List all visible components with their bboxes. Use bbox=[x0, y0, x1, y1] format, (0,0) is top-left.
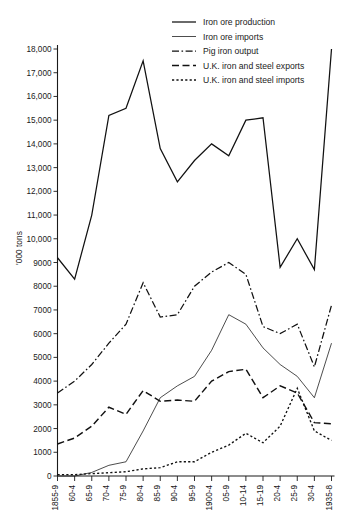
legend-label: Iron ore production bbox=[203, 17, 275, 27]
legend-label: Pig iron output bbox=[203, 46, 259, 56]
x-tick-label: 60-4 bbox=[68, 485, 77, 502]
x-tick-label: 1935-8 bbox=[325, 485, 334, 511]
y-tick-label: 18,000 bbox=[26, 45, 51, 54]
y-tick-label: 14,000 bbox=[26, 140, 51, 149]
x-tick-label: 15-19 bbox=[256, 485, 265, 506]
x-tick-label: 70-4 bbox=[102, 485, 111, 502]
x-tick-label: 90-4 bbox=[170, 485, 179, 502]
x-tick-label: 05-9 bbox=[222, 485, 231, 502]
y-axis: 010002000300040005000600070008000900010,… bbox=[26, 45, 57, 481]
x-tick-label: 80-4 bbox=[136, 485, 145, 502]
y-tick-label: 3000 bbox=[33, 401, 52, 410]
legend-label: U.K. iron and steel imports bbox=[203, 75, 304, 85]
y-tick-label: 8000 bbox=[33, 282, 52, 291]
x-tick-label: 75-9 bbox=[119, 485, 128, 502]
series-line bbox=[58, 315, 332, 476]
y-tick-label: 15,000 bbox=[26, 116, 51, 125]
series-lines bbox=[58, 49, 332, 476]
y-tick-label: 17,000 bbox=[26, 69, 51, 78]
y-tick-label: 2000 bbox=[33, 425, 52, 434]
x-tick-label: 30-4 bbox=[307, 485, 316, 502]
x-tick-label: 25-9 bbox=[290, 485, 299, 502]
y-tick-label: 12,000 bbox=[26, 187, 51, 196]
line-chart: Iron ore productionIron ore importsPig i… bbox=[0, 0, 359, 532]
y-tick-label: 0 bbox=[47, 472, 52, 481]
series-line bbox=[58, 388, 332, 474]
x-tick-label: 1855-9 bbox=[51, 485, 60, 511]
x-axis: 1855-960-465-970-475-980-485-990-495-919… bbox=[51, 476, 335, 511]
x-tick-label: 20-4 bbox=[273, 485, 282, 502]
x-tick-label: 85-9 bbox=[153, 485, 162, 502]
legend-label: U.K. iron and steel exports bbox=[203, 61, 304, 71]
series-line bbox=[58, 369, 332, 444]
y-tick-label: 6000 bbox=[33, 330, 52, 339]
y-tick-label: 1000 bbox=[33, 448, 52, 457]
y-axis-title: '000 tons bbox=[14, 231, 24, 265]
x-tick-label: 10-14 bbox=[239, 485, 248, 506]
series-line bbox=[58, 263, 332, 393]
y-tick-label: 13,000 bbox=[26, 164, 51, 173]
y-tick-label: 16,000 bbox=[26, 92, 51, 101]
y-tick-label: 5000 bbox=[33, 353, 52, 362]
chart-container: Iron ore productionIron ore importsPig i… bbox=[0, 0, 359, 532]
x-tick-label: 65-9 bbox=[85, 485, 94, 502]
y-tick-label: 7000 bbox=[33, 306, 52, 315]
y-tick-label: 9000 bbox=[33, 259, 52, 268]
x-tick-label: 95-9 bbox=[188, 485, 197, 502]
y-tick-label: 4000 bbox=[33, 377, 52, 386]
legend-label: Iron ore imports bbox=[203, 32, 263, 42]
x-tick-label: 1900-4 bbox=[205, 485, 214, 511]
legend: Iron ore productionIron ore importsPig i… bbox=[172, 17, 304, 85]
y-tick-label: 11,000 bbox=[27, 211, 52, 220]
y-tick-label: 10,000 bbox=[26, 235, 51, 244]
